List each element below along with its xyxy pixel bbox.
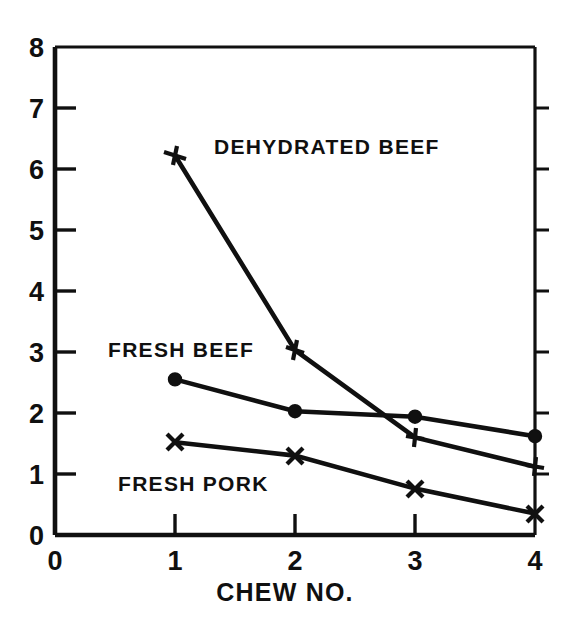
chart-page: 8 7 6 5 4 3 2 1 0 0 1 2 3 4: [0, 0, 571, 617]
y-tick-label-0: 0: [29, 521, 44, 551]
y-axis-ticks: [55, 108, 76, 474]
x-tick-label-4: 4: [527, 546, 542, 576]
y-tick-label-4: 4: [29, 277, 44, 307]
x-tick-label-0: 0: [47, 546, 62, 576]
marker-circle-4: [529, 430, 541, 442]
y-tick-label-3: 3: [29, 338, 44, 368]
series-marker-group-fresh-beef: [169, 373, 541, 442]
marker-plus-1: [164, 146, 186, 165]
marker-circle-3: [409, 411, 421, 423]
x-axis-labels: 0 1 2 3 4: [47, 546, 542, 576]
y-tick-label-5: 5: [29, 216, 44, 246]
plot-frame: [55, 47, 535, 535]
x-tick-label-2: 2: [287, 546, 302, 576]
marker-circle-1: [169, 373, 181, 385]
x-axis-ticks: [175, 514, 415, 535]
annotation-dehydrated-beef: DEHYDRATED BEEF: [214, 135, 440, 158]
y-tick-label-8: 8: [29, 33, 44, 63]
line-chart: 8 7 6 5 4 3 2 1 0 0 1 2 3 4: [0, 0, 571, 617]
annotation-fresh-pork: FRESH PORK: [118, 472, 269, 495]
y-tick-label-1: 1: [29, 460, 44, 490]
annotation-fresh-beef: FRESH BEEF: [108, 338, 254, 361]
y-axis-labels: 8 7 6 5 4 3 2 1 0: [29, 33, 44, 551]
series-fresh-beef: [169, 373, 541, 442]
x-tick-label-3: 3: [407, 546, 422, 576]
y-tick-label-7: 7: [29, 94, 44, 124]
y-tick-label-2: 2: [29, 399, 44, 429]
marker-circle-2: [289, 405, 301, 417]
y-axis-ticks-right: [535, 108, 549, 474]
y-tick-label-6: 6: [29, 155, 44, 185]
x-axis-title: CHEW NO.: [216, 578, 353, 606]
x-tick-label-1: 1: [167, 546, 182, 576]
